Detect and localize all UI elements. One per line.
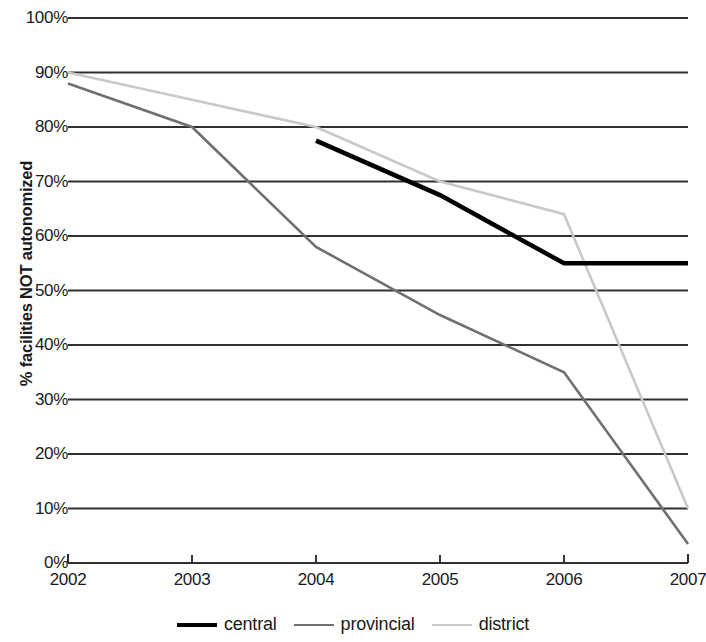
y-tick-label: 50% [6, 281, 68, 301]
y-tick-label: 80% [6, 117, 68, 137]
y-tick-label: 20% [6, 444, 68, 464]
y-tick-label: 90% [6, 63, 68, 83]
x-tick-label: 2003 [174, 570, 211, 590]
y-tick-label: 40% [6, 335, 68, 355]
line-chart: % facilities NOT autonomized 0%10%20%30%… [0, 0, 706, 642]
series-line-central [316, 141, 688, 264]
y-tick-label: 10% [6, 499, 68, 519]
legend-item-provincial: provincial [294, 614, 415, 635]
legend-line-swatch-provincial [294, 624, 334, 626]
plot-area [0, 0, 706, 642]
legend-label: provincial [341, 614, 415, 635]
x-tick-label: 2005 [422, 570, 459, 590]
series-line-provincial [68, 83, 688, 544]
x-tick-label: 2002 [50, 570, 87, 590]
y-tick-label: 70% [6, 172, 68, 192]
x-tick-label: 2007 [670, 570, 706, 590]
y-tick-label: 30% [6, 390, 68, 410]
legend-line-swatch-central [177, 623, 217, 627]
legend-item-central: central [177, 614, 277, 635]
legend-label: district [479, 614, 529, 635]
legend-line-swatch-district [432, 624, 472, 626]
y-tick-label: 100% [6, 8, 68, 28]
legend-item-district: district [432, 614, 529, 635]
x-tick-label: 2004 [298, 570, 335, 590]
chart-legend: centralprovincialdistrict [0, 614, 706, 635]
x-tick-label: 2006 [546, 570, 583, 590]
y-tick-label: 60% [6, 226, 68, 246]
legend-label: central [224, 614, 277, 635]
